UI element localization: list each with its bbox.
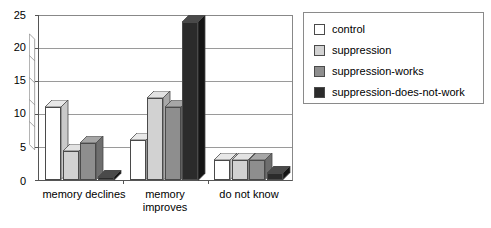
bar-control-memory-improves	[130, 140, 146, 180]
x-tickmark-2	[208, 180, 209, 184]
legend-item-suppression-works: suppression-works	[314, 64, 424, 78]
bar-suppression-does-not-work-memory-declines	[98, 177, 114, 180]
legend-label-suppression-does-not-work: suppression-does-not-work	[332, 87, 465, 98]
chart-figure: 25 20 15 10 5 0	[0, 0, 491, 228]
bar-side-face	[198, 15, 207, 182]
legend-item-suppression: suppression	[314, 43, 391, 57]
x-label-memory-declines: memory declines	[36, 188, 132, 201]
legend-label-suppression: suppression	[332, 45, 391, 56]
bar-suppression-memory-improves	[147, 98, 163, 181]
bar-control-memory-declines	[45, 107, 61, 180]
legend-item-control: control	[314, 22, 365, 36]
x-label-memory-improves-line2: improves	[123, 201, 207, 214]
x-label-memory-improves-line1: memory	[123, 188, 207, 201]
bar-suppression-works-do-not-know	[249, 160, 265, 180]
y-tickmark-0	[35, 180, 39, 181]
legend-label-control: control	[332, 24, 365, 35]
y-tick-0: 0	[4, 176, 26, 187]
bar-chart: 25 20 15 10 5 0	[0, 0, 300, 228]
legend-label-suppression-works: suppression-works	[332, 66, 424, 77]
x-tickmark-1	[123, 180, 124, 184]
y-axis-labels: 25 20 15 10 5 0	[0, 0, 26, 228]
y-tick-10: 10	[4, 108, 26, 119]
y-tick-15: 15	[4, 75, 26, 86]
bars-layer	[39, 15, 292, 180]
chart-legend: control suppression suppression-works su…	[303, 12, 484, 104]
y-tick-25: 25	[4, 10, 26, 21]
legend-swatch-control-icon	[314, 24, 325, 35]
y-tick-20: 20	[4, 42, 26, 53]
bar-suppression-works-memory-declines	[80, 143, 96, 180]
legend-swatch-suppression-icon	[314, 45, 325, 56]
bar-suppression-does-not-work-memory-improves	[182, 22, 198, 180]
axis-depth-wall	[29, 7, 37, 180]
bar-suppression-do-not-know	[232, 160, 248, 180]
bar-suppression-does-not-work-do-not-know	[267, 173, 283, 180]
legend-item-suppression-does-not-work: suppression-does-not-work	[314, 85, 465, 99]
x-label-do-not-know: do not know	[207, 188, 291, 201]
bar-suppression-memory-declines	[63, 151, 79, 180]
plot-area	[38, 15, 293, 181]
bar-control-do-not-know	[214, 160, 230, 180]
legend-swatch-suppression-works-icon	[314, 66, 325, 77]
bar-suppression-works-memory-improves	[165, 107, 181, 180]
legend-swatch-suppression-does-not-work-icon	[314, 87, 325, 98]
y-tick-5: 5	[4, 142, 26, 153]
